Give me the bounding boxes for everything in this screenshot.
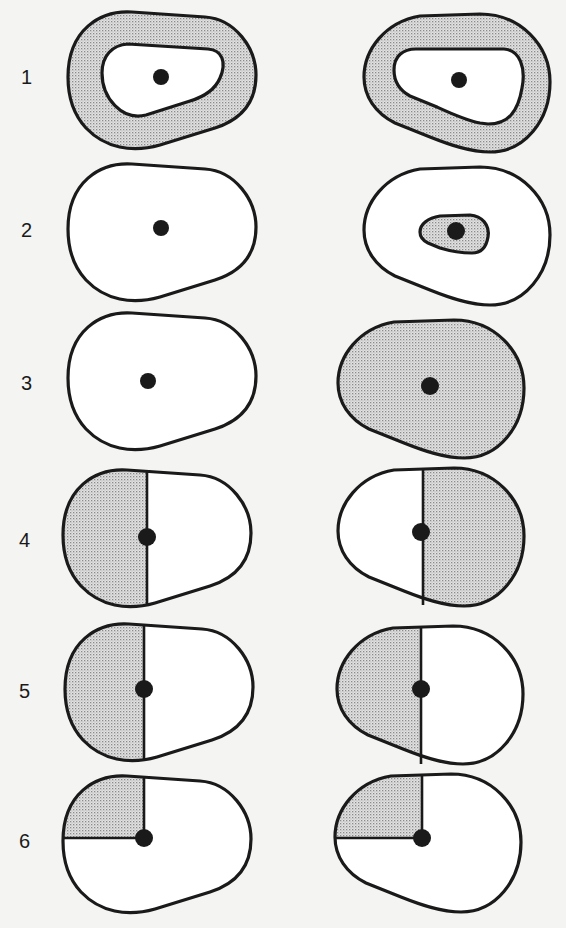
center-dot — [135, 829, 153, 847]
row-label-2: 2 — [21, 219, 32, 241]
row-4-right-shape — [338, 468, 524, 606]
center-dot — [451, 72, 467, 88]
row-4-left-shape — [63, 470, 251, 607]
row-1-left-shape — [68, 12, 256, 149]
row-label-1: 1 — [21, 66, 32, 88]
row-2-right-shape — [364, 167, 550, 305]
center-dot — [153, 220, 169, 236]
row-6-right-shape — [335, 774, 521, 912]
row-2-left-shape — [68, 164, 256, 301]
center-dot — [140, 373, 156, 389]
row-label-3: 3 — [21, 372, 32, 394]
figure-canvas: 1 2 3 4 5 6 — [0, 0, 566, 928]
center-dot — [135, 680, 153, 698]
row-3-left-shape — [68, 313, 256, 450]
row-6-left-shape — [63, 776, 251, 913]
center-dot — [153, 69, 169, 85]
center-dot — [421, 377, 439, 395]
row-1-right-shape — [364, 14, 550, 152]
center-dot — [412, 523, 430, 541]
row-label-4: 4 — [19, 529, 30, 551]
center-dot — [447, 222, 465, 240]
center-dot — [138, 528, 156, 546]
row-label-5: 5 — [19, 680, 30, 702]
row-5-left-shape — [65, 624, 253, 761]
row-label-6: 6 — [19, 830, 30, 852]
row-3-right-shape — [338, 320, 524, 458]
center-dot — [413, 829, 431, 847]
center-dot — [412, 680, 430, 698]
row-5-right-shape — [337, 626, 523, 764]
